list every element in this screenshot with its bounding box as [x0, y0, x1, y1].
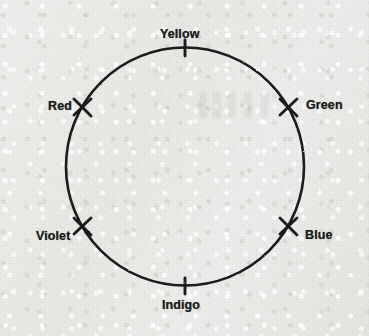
label-green: Green: [306, 99, 343, 112]
label-violet: Violet: [36, 230, 70, 243]
label-indigo: Indigo: [162, 299, 200, 312]
scanned-page: Yellow Green Red Violet Blue Indigo: [0, 0, 369, 336]
color-wheel-circle: [66, 48, 304, 286]
label-yellow: Yellow: [160, 28, 200, 41]
label-blue: Blue: [305, 229, 333, 242]
label-red: Red: [48, 100, 72, 113]
color-circle-diagram: [0, 0, 369, 336]
